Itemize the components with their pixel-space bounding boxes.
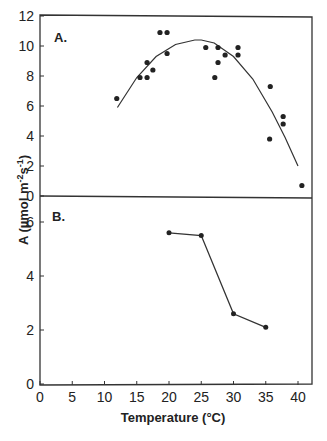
x-tick-label: 25 xyxy=(193,389,209,405)
data-point xyxy=(299,183,304,188)
data-point xyxy=(281,121,286,126)
data-point xyxy=(215,45,220,50)
data-point xyxy=(268,84,273,89)
y-tick-label: 2 xyxy=(26,322,34,338)
x-tick-label: 5 xyxy=(68,389,76,405)
data-point xyxy=(203,45,208,50)
x-axis-label: Temperature (°C) xyxy=(121,410,226,425)
panel-a-label: A. xyxy=(54,30,67,45)
y-tick-label: 4 xyxy=(26,268,34,284)
y-tick-label: 10 xyxy=(18,38,34,54)
data-point xyxy=(150,67,155,72)
data-point xyxy=(215,60,220,65)
panel-b-label: B. xyxy=(52,209,65,224)
panel-a-scatter-points xyxy=(114,30,304,188)
y-tick-label: 4 xyxy=(26,128,34,144)
data-point xyxy=(137,75,142,80)
data-point xyxy=(281,114,286,119)
y-tick-label: 0 xyxy=(26,376,34,392)
y-tick-label: 8 xyxy=(26,68,34,84)
panel-b-line-series xyxy=(167,230,269,329)
x-tick-label: 35 xyxy=(258,389,274,405)
y-tick-label: 6 xyxy=(26,98,34,114)
data-point xyxy=(164,51,169,56)
data-point xyxy=(231,311,236,316)
x-tick-label: 0 xyxy=(36,389,44,405)
x-tick-label: 20 xyxy=(161,389,177,405)
panel-a-fit-curve xyxy=(117,40,298,166)
x-tick-label: 40 xyxy=(290,389,306,405)
plot-frame xyxy=(40,15,312,385)
data-point xyxy=(212,75,217,80)
data-point xyxy=(263,325,268,330)
data-point xyxy=(167,230,172,235)
data-point xyxy=(144,60,149,65)
data-point xyxy=(235,52,240,57)
y-tick-label: 12 xyxy=(18,8,34,24)
data-point xyxy=(157,30,162,35)
data-point xyxy=(199,233,204,238)
data-point xyxy=(164,30,169,35)
temperature-photosynthesis-chart: 024681012 0246 0510152025303540 A. B. A … xyxy=(0,0,327,441)
data-point xyxy=(223,52,228,57)
data-point xyxy=(114,96,119,101)
y-axis-label: A (µmol m-2s-1) xyxy=(15,155,31,245)
x-tick-label: 30 xyxy=(226,389,242,405)
x-tick-label: 10 xyxy=(97,389,113,405)
data-point xyxy=(144,75,149,80)
x-tick-label: 15 xyxy=(129,389,145,405)
data-point xyxy=(235,45,240,50)
data-point xyxy=(267,136,272,141)
